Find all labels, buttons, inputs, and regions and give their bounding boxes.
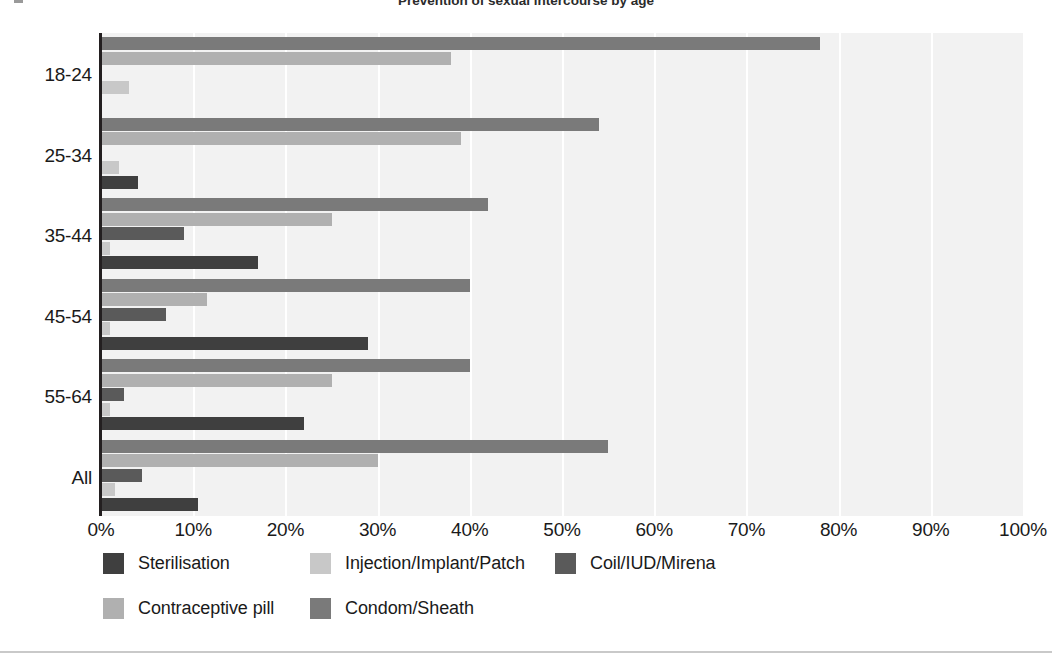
y-axis-tick-label: 25-34 — [4, 145, 92, 167]
bar — [101, 81, 129, 94]
x-axis-tick-label: 0% — [87, 519, 114, 541]
bar — [101, 388, 124, 401]
bar — [101, 469, 142, 482]
legend-item[interactable]: Condom/Sheath — [310, 598, 474, 619]
y-axis-tick-label: 18-24 — [4, 64, 92, 86]
bar — [101, 374, 332, 387]
bar — [101, 293, 207, 306]
bar — [101, 322, 110, 335]
x-axis-tick-label: 90% — [912, 519, 949, 541]
bar — [101, 403, 110, 416]
plot-area — [101, 33, 1023, 516]
bar — [101, 227, 184, 240]
bar — [101, 308, 166, 321]
legend-label: Condom/Sheath — [345, 598, 474, 619]
x-axis-tick-label: 70% — [728, 519, 765, 541]
bar — [101, 337, 368, 350]
bar — [101, 359, 470, 372]
y-axis-tick-labels: 18-2425-3435-4445-5455-64All — [0, 33, 92, 516]
x-axis-tick-labels: 0%10%20%30%40%50%60%70%80%90%100% — [101, 519, 1023, 549]
legend-item[interactable]: Coil/IUD/Mirena — [555, 553, 716, 574]
y-axis-tick-label: 55-64 — [4, 386, 92, 408]
bar — [101, 161, 119, 174]
bar — [101, 454, 378, 467]
y-axis-tick-label: 45-54 — [4, 306, 92, 328]
legend-swatch-icon — [555, 553, 576, 574]
x-axis-tick-label: 50% — [543, 519, 580, 541]
bottom-divider — [0, 651, 1052, 653]
y-axis-tick-label: All — [4, 467, 92, 489]
bar — [101, 118, 599, 131]
legend-label: Coil/IUD/Mirena — [590, 553, 716, 574]
contraception-by-age-bar-chart: Prevention of sexual intercourse by age … — [0, 0, 1052, 656]
x-axis-tick-label: 80% — [820, 519, 857, 541]
legend-label: Contraceptive pill — [138, 598, 274, 619]
legend-swatch-icon — [310, 553, 331, 574]
y-axis-line — [99, 33, 102, 516]
bar — [101, 52, 451, 65]
chart-title: Prevention of sexual intercourse by age — [0, 0, 1052, 8]
chart-legend: SterilisationInjection/Implant/PatchCoil… — [103, 553, 1003, 633]
x-axis-tick-label: 40% — [451, 519, 488, 541]
legend-swatch-icon — [103, 598, 124, 619]
bar — [101, 176, 138, 189]
bar — [101, 132, 461, 145]
bar — [101, 417, 304, 430]
bar — [101, 483, 115, 496]
bar — [101, 198, 488, 211]
bar-group — [101, 114, 1023, 195]
chart-title-band: Prevention of sexual intercourse by age — [0, 0, 1052, 11]
bar-group — [101, 436, 1023, 517]
legend-item[interactable]: Contraceptive pill — [103, 598, 274, 619]
legend-label: Injection/Implant/Patch — [345, 553, 525, 574]
x-axis-tick-label: 60% — [635, 519, 672, 541]
bar — [101, 242, 110, 255]
x-axis-tick-label: 100% — [999, 519, 1047, 541]
bar — [101, 440, 608, 453]
legend-swatch-icon — [310, 598, 331, 619]
x-axis-tick-label: 10% — [174, 519, 211, 541]
bar — [101, 256, 258, 269]
bar — [101, 213, 332, 226]
y-axis-tick-label: 35-44 — [4, 225, 92, 247]
bar-group — [101, 194, 1023, 275]
bar-group — [101, 33, 1023, 114]
x-axis-tick-label: 20% — [267, 519, 304, 541]
bar — [101, 279, 470, 292]
bar-group — [101, 355, 1023, 436]
gridline — [1023, 33, 1025, 516]
bar — [101, 37, 820, 50]
legend-label: Sterilisation — [138, 553, 230, 574]
bar-group — [101, 275, 1023, 356]
bar — [101, 498, 198, 511]
legend-swatch-icon — [103, 553, 124, 574]
legend-item[interactable]: Injection/Implant/Patch — [310, 553, 525, 574]
x-axis-tick-label: 30% — [359, 519, 396, 541]
legend-item[interactable]: Sterilisation — [103, 553, 230, 574]
